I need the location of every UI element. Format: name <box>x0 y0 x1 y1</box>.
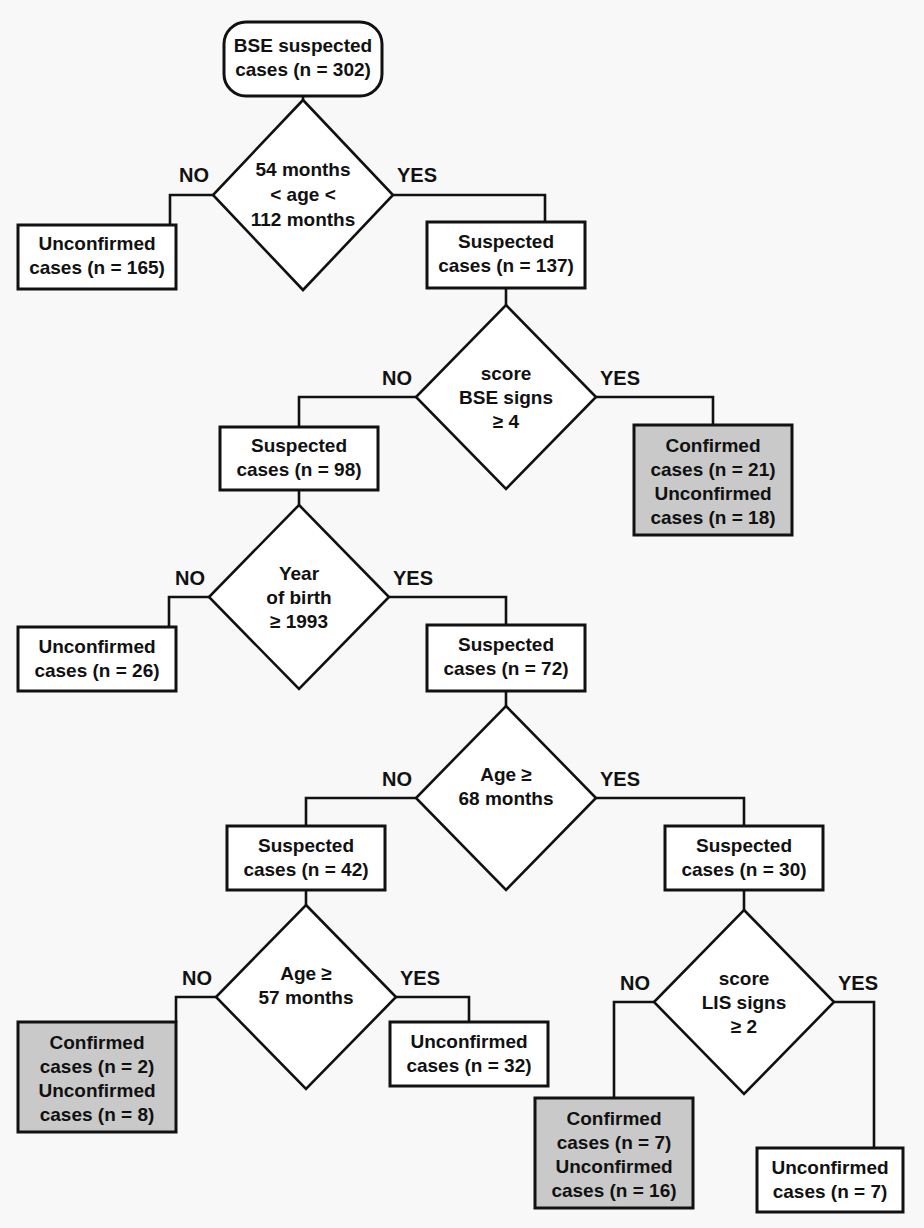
node-suspected-137[interactable]: Suspected cases (n = 137) <box>427 222 585 288</box>
connector-age57-yes <box>396 997 469 1022</box>
node-line: Age ≥ <box>480 764 532 785</box>
node-line: BSE suspected <box>234 35 372 56</box>
branch-label-yes: YES <box>400 967 440 989</box>
node-bse-suspected-cases[interactable]: BSE suspected cases (n = 302) <box>224 22 382 96</box>
node-line: cases (n = 98) <box>236 459 361 480</box>
branch-label-no: NO <box>382 768 412 790</box>
flowchart-canvas: BSE suspected cases (n = 302) 54 months … <box>0 0 924 1228</box>
node-line: cases (n = 42) <box>243 859 368 880</box>
node-line: 112 months <box>251 209 356 230</box>
connector-age68-yes <box>596 798 744 826</box>
connector-lis-no <box>614 1002 654 1098</box>
node-line: of birth <box>266 587 331 608</box>
node-line: ≥ 1993 <box>270 611 328 632</box>
node-line: Suspected <box>696 835 792 856</box>
node-line: Suspected <box>251 435 347 456</box>
node-line: BSE signs <box>459 387 553 408</box>
connector-lis-yes <box>834 1002 874 1148</box>
node-line: cases (n = 302) <box>235 59 371 80</box>
branch-label-no: NO <box>175 567 205 589</box>
node-line: cases (n = 32) <box>406 1055 531 1076</box>
node-line: 68 months <box>458 788 553 809</box>
node-unconfirmed-165[interactable]: Unconfirmed cases (n = 165) <box>18 225 176 289</box>
node-line: cases (n = 18) <box>650 507 775 528</box>
node-suspected-42[interactable]: Suspected cases (n = 42) <box>227 826 385 890</box>
node-line: Unconfirmed <box>771 1157 888 1178</box>
node-line: cases (n = 7) <box>557 1132 672 1153</box>
node-line: Unconfirmed <box>555 1156 672 1177</box>
node-line: cases (n = 165) <box>29 257 165 278</box>
node-confirmed-7-unconfirmed-16[interactable]: Confirmed cases (n = 7) Unconfirmed case… <box>535 1098 693 1208</box>
node-line: < age < <box>270 184 336 205</box>
node-confirmed-21-unconfirmed-18[interactable]: Confirmed cases (n = 21) Unconfirmed cas… <box>634 425 792 535</box>
node-line: Year <box>279 563 320 584</box>
node-line: ≥ 4 <box>493 411 520 432</box>
node-line: cases (n = 137) <box>438 255 574 276</box>
node-unconfirmed-7[interactable]: Unconfirmed cases (n = 7) <box>757 1148 903 1212</box>
node-line: Suspected <box>458 231 554 252</box>
node-line: Suspected <box>258 835 354 856</box>
connector-year-no <box>169 597 209 627</box>
node-confirmed-2-unconfirmed-8[interactable]: Confirmed cases (n = 2) Unconfirmed case… <box>18 1022 176 1132</box>
node-line: Unconfirmed <box>38 636 155 657</box>
node-line: Unconfirmed <box>654 483 771 504</box>
node-line: cases (n = 21) <box>650 459 775 480</box>
node-line: Confirmed <box>50 1032 145 1053</box>
node-suspected-72[interactable]: Suspected cases (n = 72) <box>427 625 585 691</box>
node-line: score <box>481 363 532 384</box>
node-line: LIS signs <box>702 992 786 1013</box>
node-line: cases (n = 16) <box>551 1180 676 1201</box>
branch-label-yes: YES <box>397 164 437 186</box>
branch-label-no: NO <box>382 367 412 389</box>
node-line: score <box>719 968 770 989</box>
node-line: cases (n = 7) <box>773 1181 888 1202</box>
node-unconfirmed-26[interactable]: Unconfirmed cases (n = 26) <box>18 627 176 691</box>
node-unconfirmed-32[interactable]: Unconfirmed cases (n = 32) <box>390 1022 548 1086</box>
branch-label-yes: YES <box>600 768 640 790</box>
node-line: Unconfirmed <box>38 1080 155 1101</box>
connector-age57-no <box>176 997 216 1022</box>
branch-label-yes: YES <box>838 972 878 994</box>
node-suspected-30[interactable]: Suspected cases (n = 30) <box>665 826 823 890</box>
node-line: 57 months <box>258 987 353 1008</box>
node-suspected-98[interactable]: Suspected cases (n = 98) <box>220 427 378 490</box>
branch-label-yes: YES <box>393 567 433 589</box>
connector-age68-no <box>306 798 416 826</box>
branch-label-no: NO <box>179 164 209 186</box>
node-line: Unconfirmed <box>410 1031 527 1052</box>
node-line: cases (n = 72) <box>443 658 568 679</box>
node-line: 54 months <box>255 159 350 180</box>
connector-age-range-no <box>170 195 213 225</box>
node-line: cases (n = 2) <box>40 1056 155 1077</box>
node-line: Confirmed <box>666 435 761 456</box>
node-line: Suspected <box>458 634 554 655</box>
branch-label-no: NO <box>182 967 212 989</box>
node-line: Confirmed <box>567 1108 662 1129</box>
connector-age-range-yes <box>393 195 545 222</box>
connector-year-yes <box>389 597 506 625</box>
node-line: cases (n = 8) <box>40 1104 155 1125</box>
flowchart-page: BSE suspected cases (n = 302) 54 months … <box>0 0 924 1228</box>
node-line: cases (n = 26) <box>34 660 159 681</box>
node-line: Age ≥ <box>280 963 332 984</box>
node-line: ≥ 2 <box>731 1016 757 1037</box>
branch-label-yes: YES <box>600 367 640 389</box>
connector-bse-score-no <box>299 397 416 427</box>
connector-bse-score-yes <box>596 397 713 425</box>
branch-label-no: NO <box>620 972 650 994</box>
node-line: cases (n = 30) <box>681 859 806 880</box>
node-line: Unconfirmed <box>38 233 155 254</box>
